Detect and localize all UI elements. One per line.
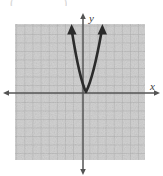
- coordinate-plane-graph: y x: [0, 0, 163, 176]
- y-axis-label: y: [88, 12, 94, 24]
- y-axis-bottom-arrowhead: [80, 169, 86, 175]
- x-axis-right-arrowhead: [154, 90, 160, 96]
- x-axis-label: x: [149, 80, 155, 92]
- grid-background: [15, 24, 145, 160]
- y-axis-top-arrowhead: [80, 13, 86, 19]
- x-axis-left-arrowhead: [3, 90, 9, 96]
- parabola-figure: ( ): [0, 0, 163, 176]
- grid-region: [15, 24, 145, 160]
